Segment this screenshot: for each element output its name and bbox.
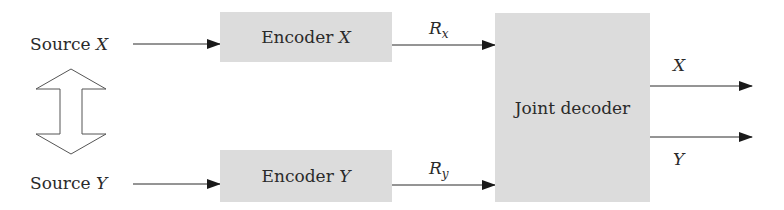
joint-decoder-label: Joint decoder xyxy=(515,98,630,118)
rate-x-label: Rx xyxy=(429,20,449,40)
source-y-var: Y xyxy=(96,173,107,193)
rate-y-sub: y xyxy=(442,167,449,181)
encoder-x-box: Encoder X xyxy=(220,12,392,62)
bidirectional-hollow-arrow-icon xyxy=(36,69,106,154)
encoder-y-prefix: Encoder xyxy=(262,166,340,186)
source-y-label: Source Y xyxy=(30,175,107,192)
rate-y-main: R xyxy=(429,158,442,178)
encoder-y-label: Encoder Y xyxy=(262,166,351,186)
joint-decoder-box: Joint decoder xyxy=(495,13,650,202)
encoder-y-var: Y xyxy=(339,166,350,186)
output-x-label: X xyxy=(673,57,685,74)
source-x-label: Source X xyxy=(30,36,108,53)
encoder-y-box: Encoder Y xyxy=(220,150,392,202)
source-y-prefix: Source xyxy=(30,173,96,193)
source-x-prefix: Source xyxy=(30,34,96,54)
rate-x-sub: x xyxy=(442,27,449,41)
rate-y-label: Ry xyxy=(429,160,449,180)
encoder-x-var: X xyxy=(339,27,351,47)
encoder-x-label: Encoder X xyxy=(261,27,351,47)
encoder-x-prefix: Encoder xyxy=(261,27,339,47)
diagram-canvas: Source X Source Y Encoder X Encoder Y Rx… xyxy=(0,0,784,210)
connector-layer xyxy=(0,0,784,210)
rate-x-main: R xyxy=(429,18,442,38)
output-y-label: Y xyxy=(673,151,684,168)
source-x-var: X xyxy=(96,34,108,54)
